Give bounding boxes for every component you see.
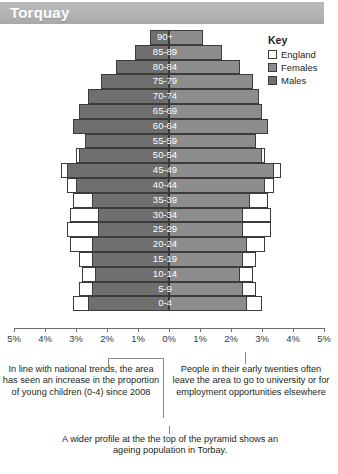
leader-line-right <box>245 352 246 364</box>
pyramid-row <box>0 208 338 223</box>
females-bar <box>169 119 268 134</box>
axis-tick <box>14 328 15 332</box>
males-bar <box>67 163 169 178</box>
pyramid-row <box>0 178 338 193</box>
males-bar <box>92 193 170 208</box>
females-bar <box>169 45 222 60</box>
axis-tick-label: 2% <box>92 333 122 344</box>
legend-item-england: England <box>268 49 336 60</box>
axis-tick-label: 5% <box>309 333 338 344</box>
pyramid-row <box>0 296 338 311</box>
males-bar <box>101 74 169 89</box>
square-filled-icon <box>268 63 277 72</box>
axis-tick <box>200 328 201 332</box>
females-bar <box>169 178 265 193</box>
females-bar <box>169 163 274 178</box>
axis-tick-label: 3% <box>61 333 91 344</box>
males-bar <box>88 296 169 311</box>
pyramid-row <box>0 267 338 282</box>
males-bar <box>88 89 169 104</box>
females-bar <box>169 193 250 208</box>
pyramid-row <box>0 163 338 178</box>
pyramid-row <box>0 134 338 149</box>
axis-tick-label: 4% <box>278 333 308 344</box>
females-bar <box>169 237 247 252</box>
axis-tick <box>76 328 77 332</box>
axis-tick <box>324 328 325 332</box>
males-bar <box>92 237 170 252</box>
axis-tick <box>138 328 139 332</box>
square-filled-icon <box>268 76 277 85</box>
males-bar <box>95 267 169 282</box>
pyramid-row <box>0 193 338 208</box>
pyramid-row <box>0 104 338 119</box>
males-bar <box>92 282 170 297</box>
axis-tick <box>231 328 232 332</box>
axis-tick <box>293 328 294 332</box>
females-bar <box>169 252 243 267</box>
axis-tick <box>169 328 170 332</box>
females-bar <box>169 74 253 89</box>
legend-label-females: Females <box>281 62 317 73</box>
axis-tick-label: 5% <box>0 333 29 344</box>
page-title: Torquay <box>10 4 69 21</box>
males-bar <box>92 252 170 267</box>
pyramid-row <box>0 89 338 104</box>
pyramid-row <box>0 237 338 252</box>
females-bar <box>169 296 247 311</box>
leader-line-bottom <box>169 426 170 434</box>
legend-label-males: Males <box>281 75 306 86</box>
axis-tick-label: 3% <box>247 333 277 344</box>
males-bar <box>79 104 169 119</box>
females-bar <box>169 89 259 104</box>
females-bar <box>169 134 256 149</box>
males-bar <box>76 178 169 193</box>
leader-line-left-horizontal <box>108 358 164 359</box>
males-bar <box>85 134 169 149</box>
axis-tick-label: 1% <box>123 333 153 344</box>
males-bar <box>98 222 169 237</box>
legend-item-males: Males <box>268 75 336 86</box>
legend-item-females: Females <box>268 62 336 73</box>
chart-legend: Key England Females Males <box>268 34 336 88</box>
pyramid-row <box>0 119 338 134</box>
annotation-left: In line with national trends, the area h… <box>2 364 160 398</box>
legend-title: Key <box>268 34 336 46</box>
males-bar <box>98 208 169 223</box>
females-bar <box>169 282 243 297</box>
leader-line-left-down <box>163 358 164 418</box>
males-bar <box>73 119 169 134</box>
females-bar <box>169 267 240 282</box>
males-bar <box>79 148 169 163</box>
axis-tick <box>45 328 46 332</box>
males-bar <box>116 60 169 75</box>
axis-tick-label: 4% <box>30 333 60 344</box>
axis-tick <box>262 328 263 332</box>
square-outline-icon <box>268 50 277 59</box>
females-bar <box>169 30 203 45</box>
females-bar <box>169 148 262 163</box>
females-bar <box>169 208 243 223</box>
legend-label-england: England <box>281 49 316 60</box>
pyramid-row <box>0 252 338 267</box>
annotation-right: People in their early twenties often lea… <box>172 364 330 398</box>
males-bar <box>135 45 169 60</box>
males-bar <box>150 30 169 45</box>
axis-tick <box>107 328 108 332</box>
females-bar <box>169 104 262 119</box>
pyramid-row <box>0 282 338 297</box>
females-bar <box>169 222 243 237</box>
title-bar: Torquay <box>0 2 324 24</box>
females-bar <box>169 60 240 75</box>
axis-tick-label: 2% <box>216 333 246 344</box>
pyramid-row <box>0 222 338 237</box>
x-axis: 5%4%3%2%1%0%1%2%3%4%5% <box>0 328 338 358</box>
axis-tick-label: 0% <box>154 333 184 344</box>
pyramid-row <box>0 148 338 163</box>
annotation-bottom: A wider profile at the the top of the py… <box>50 434 290 457</box>
axis-tick-label: 1% <box>185 333 215 344</box>
